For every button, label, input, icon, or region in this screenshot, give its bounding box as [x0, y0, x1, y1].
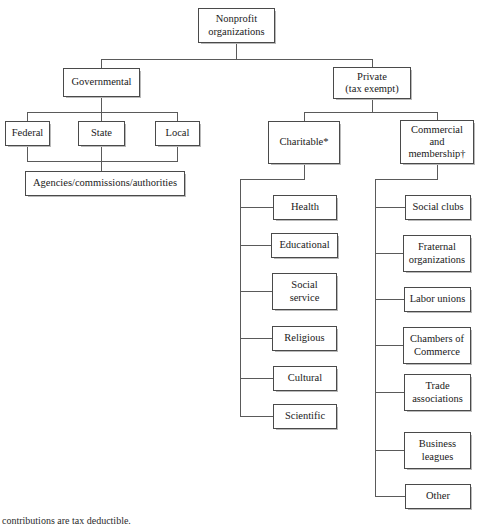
node-commercial-and-membership[interactable]: Commercial and membership† [400, 120, 474, 164]
connector-bus-to-private [372, 59, 373, 67]
nonprofit-organizations-chart: Nonprofit organizations Governmental Pri… [0, 0, 499, 529]
connector-stub-scientific [240, 416, 274, 417]
connector-stub-fraternal [375, 253, 404, 254]
node-label: Health [291, 201, 319, 213]
node-agencies-commissions-authorities[interactable]: Agencies/commissions/authorities [25, 171, 185, 196]
node-label: Local [166, 127, 190, 139]
node-label: Commercial and membership† [408, 124, 465, 160]
connector-charitable-elbow [240, 179, 305, 180]
connector-bus-to-charitable [304, 112, 305, 121]
node-label: Scientific [285, 410, 325, 422]
node-health[interactable]: Health [273, 195, 337, 220]
node-label: Charitable* [280, 136, 329, 148]
connector-charitable-down [304, 164, 305, 179]
node-label: Private (tax exempt) [345, 71, 398, 95]
node-nonprofit-organizations[interactable]: Nonprofit organizations [198, 8, 275, 43]
connector-stub-cultural [240, 378, 274, 379]
node-federal[interactable]: Federal [5, 121, 50, 146]
connector-stub-business-leagues [375, 450, 405, 451]
connector-federal-down [27, 146, 28, 161]
connector-stub-social-clubs [375, 207, 406, 208]
node-chambers-of-commerce[interactable]: Chambers of Commerce [403, 327, 471, 364]
connector-bus-to-federal [27, 112, 28, 121]
connector-bus-to-state [101, 112, 102, 121]
node-charitable[interactable]: Charitable* [268, 121, 340, 164]
node-private[interactable]: Private (tax exempt) [333, 67, 411, 99]
connector-commercial-trunk [375, 179, 376, 496]
connector-agencies-bus [27, 161, 178, 162]
node-label: Business leagues [419, 438, 456, 462]
connector-state-to-agencies [101, 146, 102, 171]
connector-root-down [236, 43, 237, 59]
node-label: Fraternal organizations [409, 241, 465, 265]
node-governmental[interactable]: Governmental [63, 68, 140, 97]
node-educational[interactable]: Educational [271, 233, 338, 258]
connector-private-bus [304, 112, 438, 113]
connector-commercial-down [437, 164, 438, 179]
connector-stub-religious [240, 338, 273, 339]
node-label: Trade associations [412, 380, 463, 404]
node-label: Federal [12, 127, 44, 139]
node-scientific[interactable]: Scientific [273, 404, 337, 429]
connector-stub-other [375, 496, 406, 497]
node-label: Other [426, 490, 450, 502]
node-local[interactable]: Local [155, 121, 200, 146]
connector-private-down [372, 99, 373, 112]
connector-bus-to-local [177, 112, 178, 121]
node-label: Social service [290, 279, 320, 303]
node-label: Religious [284, 332, 324, 344]
node-trade-associations[interactable]: Trade associations [404, 374, 471, 411]
connector-stub-trade [375, 392, 405, 393]
connector-local-down [177, 146, 178, 161]
node-cultural[interactable]: Cultural [273, 366, 337, 391]
node-label: Educational [279, 239, 329, 251]
connector-bus-to-governmental [101, 59, 102, 68]
connector-charitable-trunk [240, 179, 241, 416]
connector-stub-educational [240, 245, 272, 246]
connector-commercial-elbow [375, 179, 438, 180]
node-other[interactable]: Other [405, 484, 471, 509]
node-business-leagues[interactable]: Business leagues [404, 432, 471, 469]
node-label: State [91, 127, 112, 139]
connector-governmental-bus [27, 112, 177, 113]
node-fraternal-organizations[interactable]: Fraternal organizations [403, 235, 471, 272]
node-label: Labor unions [410, 293, 466, 305]
connector-stub-health [240, 207, 274, 208]
node-social-service[interactable]: Social service [272, 273, 337, 310]
connector-stub-chambers [375, 345, 404, 346]
connector-level1-bus [101, 59, 372, 60]
node-label: Chambers of Commerce [410, 333, 464, 357]
node-social-clubs[interactable]: Social clubs [405, 195, 471, 220]
connector-stub-labor-unions [375, 299, 405, 300]
node-label: Cultural [288, 372, 322, 384]
node-label: Agencies/commissions/authorities [33, 177, 177, 189]
node-label: Social clubs [412, 201, 463, 213]
connector-stub-social-service [240, 291, 273, 292]
connector-bus-to-commercial [437, 112, 438, 120]
node-religious[interactable]: Religious [272, 326, 337, 351]
node-labor-unions[interactable]: Labor unions [404, 287, 471, 312]
node-label: Governmental [71, 76, 131, 88]
node-label: Nonprofit organizations [208, 13, 264, 37]
connector-governmental-down [101, 97, 102, 112]
node-state[interactable]: State [78, 121, 125, 146]
footnote-text: contributions are tax deductible. [2, 515, 131, 526]
